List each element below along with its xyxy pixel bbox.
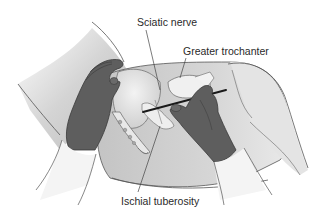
sacral-foramen: [123, 128, 127, 132]
sacral-foramen: [118, 120, 122, 124]
label-sciatic-nerve: Sciatic nerve: [137, 17, 197, 28]
thumb: [110, 78, 118, 85]
sacral-foramen: [128, 135, 132, 139]
label-ischial-tuberosity: Ischial tuberosity: [121, 196, 199, 207]
thumb: [171, 105, 181, 112]
label-greater-trochanter: Greater trochanter: [183, 46, 269, 57]
anatomical-diagram: Sciatic nerve Greater trochanter Ischial…: [0, 0, 312, 222]
illustration: [0, 0, 312, 222]
sacral-foramen: [132, 141, 135, 144]
